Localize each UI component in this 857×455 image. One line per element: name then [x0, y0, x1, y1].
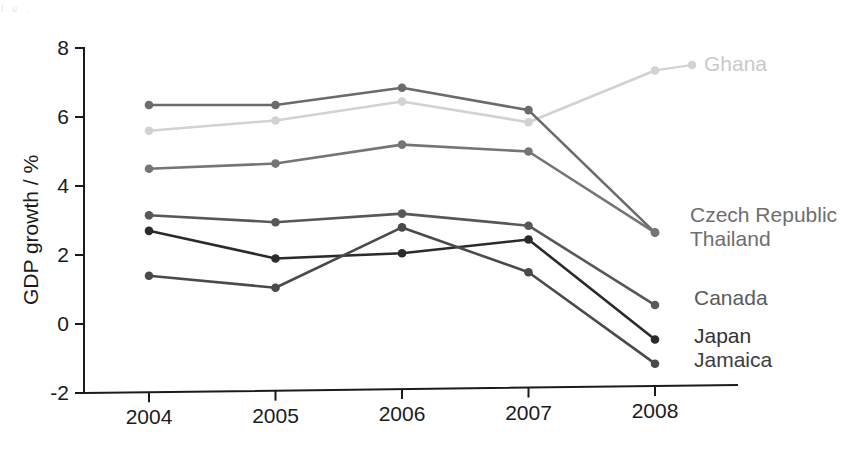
data-point: [651, 335, 660, 344]
data-point: [524, 147, 533, 156]
series-group: [145, 66, 660, 368]
y-tick-label: 4: [57, 174, 69, 197]
leader-line-ghana: [655, 65, 692, 70]
x-axis-line: [84, 385, 737, 393]
data-point: [271, 116, 280, 125]
data-point: [271, 283, 280, 292]
y-tick-label: -2: [50, 381, 69, 404]
label-anchor-dot: [688, 61, 697, 70]
data-point: [145, 271, 154, 280]
y-tick-label: 0: [57, 312, 69, 335]
data-point: [398, 97, 407, 106]
data-point: [524, 106, 533, 115]
data-point: [524, 268, 533, 277]
y-tick-label: 2: [57, 243, 69, 266]
x-tick-label: 2007: [505, 401, 552, 424]
y-tick-label: 6: [57, 105, 69, 128]
series-label-jamaica: Jamaica: [694, 348, 773, 371]
data-point: [398, 140, 407, 149]
y-tick-label: 8: [57, 36, 69, 59]
data-point: [651, 228, 660, 237]
series-label-canada: Canada: [694, 286, 768, 309]
gdp-growth-line-chart: 86420-2 20042005200620072008 GhanaThaila…: [0, 0, 857, 455]
y-tick-group: 86420-2: [50, 36, 84, 404]
data-point: [271, 254, 280, 263]
data-point: [524, 235, 533, 244]
series-line-japan: [149, 231, 655, 340]
data-point: [398, 83, 407, 92]
data-point: [271, 101, 280, 110]
x-tick-label: 2005: [252, 404, 299, 427]
series-label-thailand: Thailand: [690, 227, 771, 250]
series-label-ghana: Ghana: [704, 52, 767, 75]
data-point: [398, 209, 407, 218]
data-point: [651, 301, 660, 310]
data-point: [145, 101, 154, 110]
y-axis-title: GDP growth / %: [19, 155, 42, 305]
data-point: [524, 221, 533, 230]
data-point: [271, 159, 280, 168]
data-point: [271, 218, 280, 227]
x-tick-label: 2008: [632, 399, 679, 422]
data-point: [145, 127, 154, 136]
data-point: [398, 249, 407, 258]
x-tick-label: 2006: [379, 402, 426, 425]
data-point: [524, 118, 533, 127]
x-tick-label: 2004: [126, 405, 173, 428]
series-label-group: GhanaThailandCzech RepublicCanadaJapanJa…: [690, 52, 837, 371]
series-label-japan: Japan: [694, 324, 751, 347]
chart-figure: f g . 86420-2 20042005200620072008 Ghana…: [0, 0, 857, 455]
data-point: [651, 359, 660, 368]
data-point: [145, 227, 154, 236]
data-point: [145, 164, 154, 173]
leader-line-group: [655, 61, 696, 71]
axis-group: [84, 48, 737, 393]
data-point: [145, 211, 154, 220]
data-point: [398, 223, 407, 232]
series-label-czech-republic: Czech Republic: [690, 203, 837, 226]
